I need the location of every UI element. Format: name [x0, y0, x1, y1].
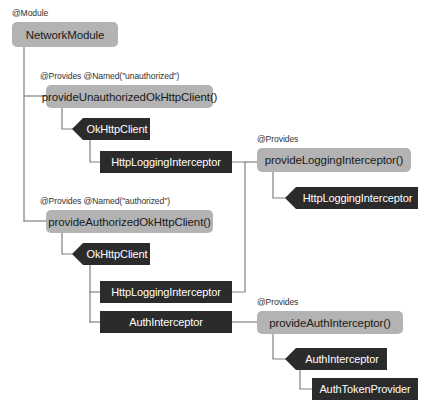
- dependency-graph-diagram: @Module @Provides @Named("unauthorized")…: [0, 0, 429, 415]
- node-authinterceptor-authorized-label: AuthInterceptor: [129, 316, 203, 328]
- node-okhttpclient-authorized[interactable]: OkHttpClient: [72, 243, 150, 265]
- node-provide-logging-interceptor[interactable]: provideLoggingInterceptor(): [257, 148, 411, 172]
- wire-auth-provider-to-okhttp: [62, 233, 72, 254]
- node-httplogginginterceptor-provided[interactable]: HttpLoggingInterceptor: [285, 187, 418, 209]
- node-okhttpclient-unauthorized-label: OkHttpClient: [86, 123, 147, 135]
- node-provide-logging-interceptor-label: provideLoggingInterceptor(): [265, 154, 404, 166]
- annotation-unauthorized: @Provides @Named("unauthorized"): [40, 71, 179, 81]
- node-network-module-label: NetworkModule: [26, 29, 105, 41]
- node-okhttpclient-authorized-label: OkHttpClient: [86, 248, 147, 260]
- node-httplogginginterceptor-authorized-label: HttpLoggingInterceptor: [111, 286, 221, 298]
- node-provide-authorized-okhttpclient-label: provideAuthorizedOkHttpClient(): [48, 216, 210, 228]
- wire-unauth-okhttp-to-logging: [90, 140, 100, 162]
- node-provide-unauthorized-okhttpclient-label: provideUnauthorizedOkHttpClient(): [42, 91, 218, 103]
- node-okhttpclient-unauthorized[interactable]: OkHttpClient: [72, 118, 150, 140]
- node-httplogginginterceptor-unauthorized-label: HttpLoggingInterceptor: [111, 156, 221, 168]
- annotation-provides-logging: @Provides: [257, 134, 298, 144]
- annotation-module: @Module: [12, 8, 48, 18]
- node-authinterceptor-provided[interactable]: AuthInterceptor: [285, 348, 387, 370]
- wire-auth-provider-to-dep: [273, 334, 285, 359]
- node-authinterceptor-provided-label: AuthInterceptor: [305, 353, 379, 365]
- node-provide-unauthorized-okhttpclient[interactable]: provideUnauthorizedOkHttpClient(): [46, 85, 213, 108]
- wire-logging-provider-to-dep: [273, 172, 285, 198]
- wire-unauth-provider-to-okhttp: [62, 108, 72, 129]
- annotation-authorized: @Provides @Named("authorized"): [40, 196, 170, 206]
- node-provide-authorized-okhttpclient[interactable]: provideAuthorizedOkHttpClient(): [46, 210, 213, 233]
- node-authtokenprovider-label: AuthTokenProvider: [319, 383, 410, 395]
- node-httplogginginterceptor-provided-label: HttpLoggingInterceptor: [303, 192, 413, 204]
- node-authinterceptor-authorized[interactable]: AuthInterceptor: [100, 311, 232, 333]
- wire-logging-collector: [232, 162, 245, 292]
- node-httplogginginterceptor-authorized[interactable]: HttpLoggingInterceptor: [100, 281, 232, 303]
- node-network-module[interactable]: NetworkModule: [12, 22, 118, 47]
- node-httplogginginterceptor-unauthorized[interactable]: HttpLoggingInterceptor: [100, 151, 232, 173]
- node-authtokenprovider[interactable]: AuthTokenProvider: [312, 378, 418, 400]
- node-provide-auth-interceptor[interactable]: provideAuthInterceptor(): [257, 311, 403, 334]
- node-provide-auth-interceptor-label: provideAuthInterceptor(): [269, 317, 391, 329]
- wire-authinterceptor-to-tokenprovider: [300, 370, 312, 389]
- annotation-provides-auth: @Provides: [257, 297, 298, 307]
